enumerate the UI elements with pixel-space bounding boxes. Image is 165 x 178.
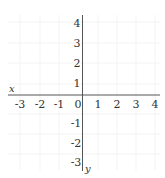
x-tick-label: -1 [54,99,65,110]
x-tick-label: -3 [15,99,26,110]
origin-label: 0 [75,99,82,110]
y-tick-label: 2 [74,58,81,69]
y-tick-label: 3 [74,38,81,49]
x-tick-label: 3 [133,99,140,110]
x-tick-label: 2 [114,99,121,110]
y-tick-label: -3 [71,157,82,168]
y-tick-label: 4 [74,18,81,29]
x-axis-label: x [9,84,15,94]
x-tick-label: -2 [35,99,46,110]
x-tick-label: 4 [152,99,159,110]
y-tick-label: -1 [71,118,82,129]
axes-graphic [0,0,165,178]
coordinate-plane: x y -3 -2 -1 0 1 2 3 4 4 3 2 1 -1 -2 -3 [0,0,165,178]
y-tick-label: 1 [74,78,81,89]
y-tick-label: -2 [71,138,82,149]
grid-lines [8,15,160,170]
x-tick-label: 1 [95,99,102,110]
y-axis-label: y [85,164,91,174]
